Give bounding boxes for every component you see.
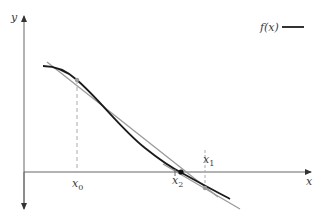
root-point: [178, 169, 183, 174]
x-axis-label: x: [306, 175, 313, 188]
legend-label: f(x): [259, 21, 279, 34]
x1-label: x1: [203, 153, 214, 168]
x0-label: x0: [72, 177, 83, 192]
point-x0-on-curve: [75, 78, 79, 82]
y-axis-label: y: [10, 11, 18, 24]
legend: f(x): [259, 21, 304, 34]
point-x1-on-curve: [203, 186, 207, 190]
newton-method-diagram: y x x0 x1 x2 f(x): [0, 0, 325, 218]
x2-label: x2: [172, 174, 183, 189]
